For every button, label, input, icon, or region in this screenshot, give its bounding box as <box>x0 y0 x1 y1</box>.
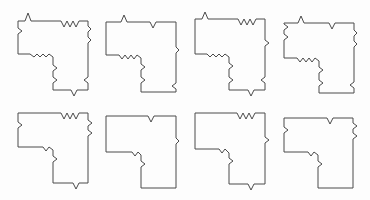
l-shape-piece-1 <box>18 13 91 96</box>
figure-canvas <box>0 0 370 200</box>
shapes-svg <box>0 0 370 200</box>
l-shape-piece-2 <box>106 15 179 92</box>
l-shape-piece-6 <box>106 116 179 188</box>
l-shape-piece-4 <box>284 16 357 93</box>
l-shape-piece-7 <box>195 113 269 190</box>
l-shape-piece-3 <box>195 12 269 96</box>
l-shape-piece-8 <box>284 118 357 188</box>
l-shape-piece-5 <box>18 113 92 189</box>
